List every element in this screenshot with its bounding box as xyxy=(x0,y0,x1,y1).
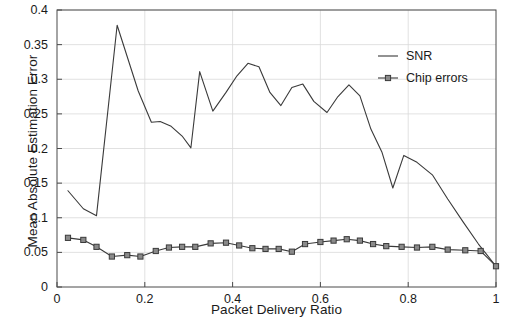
series-layer xyxy=(65,25,498,269)
plot-svg xyxy=(0,0,519,321)
legend-label-snr: SNR xyxy=(406,49,432,63)
y-axis-label: Mean Absolute Estimation Error xyxy=(23,31,41,271)
legend-label-chip-errors: Chip errors xyxy=(406,71,468,85)
y-tick-label: 0.4 xyxy=(0,3,48,17)
y-tick-label: 0 xyxy=(0,280,48,294)
x-axis-label-text: Packet Delivery Ratio xyxy=(211,302,342,317)
x-axis-label: Packet Delivery Ratio xyxy=(57,300,496,318)
y-axis-label-text: Mean Absolute Estimation Error xyxy=(25,55,40,248)
legend-glyphs xyxy=(378,56,398,81)
chart-figure: 00.050.10.150.20.250.30.350.4 00.20.40.6… xyxy=(0,0,519,321)
